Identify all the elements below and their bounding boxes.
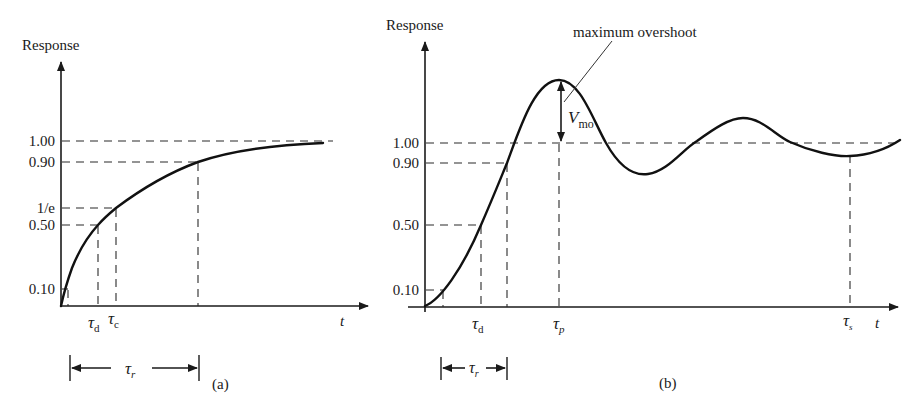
panel-b: Response t 1.00 0.90 0.50 0.10 Vmo maxim… [386, 17, 900, 392]
tick-0-50: 0.50 [29, 217, 55, 233]
y-axis-label: Response [22, 37, 80, 53]
tick-0-50: 0.50 [393, 217, 419, 233]
label-tau-c: τc [108, 309, 119, 330]
tick-1-00: 1.00 [29, 133, 55, 149]
label-tau-d: τd [88, 313, 100, 334]
tick-0-10: 0.10 [29, 281, 55, 297]
tick-1-over-e: 1/e [37, 200, 56, 216]
label-tau-r-b: τr [469, 359, 479, 379]
caption-a: (a) [212, 376, 229, 393]
label-tau-d: τd [472, 314, 484, 335]
panel-a: Response t 1.00 0.90 1/e 0.50 0.10 τd τc [22, 37, 368, 393]
tick-1-00: 1.00 [393, 135, 419, 151]
x-axis-label: t [340, 313, 345, 329]
annotation-maximum-overshoot: maximum overshoot [573, 24, 698, 40]
tick-0-10: 0.10 [393, 282, 419, 298]
tick-0-90: 0.90 [393, 155, 419, 171]
response-curve-a [61, 143, 323, 306]
label-tau-r-a: τr [125, 359, 136, 380]
response-curve-b [425, 80, 900, 306]
label-tau-s: τs [843, 311, 853, 332]
tick-0-90: 0.90 [29, 154, 55, 170]
y-axis-label: Response [386, 17, 444, 33]
overshoot-leader-line [564, 41, 612, 102]
x-axis-label: t [875, 315, 880, 331]
caption-b: (b) [659, 375, 677, 392]
step-response-figure: Response t 1.00 0.90 1/e 0.50 0.10 τd τc [0, 0, 912, 411]
label-tau-p: τp [553, 314, 565, 335]
